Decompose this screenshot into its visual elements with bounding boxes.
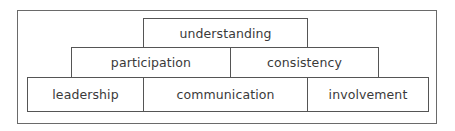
box-label: communication bbox=[177, 87, 275, 102]
box-label: consistency bbox=[267, 55, 342, 70]
pyramid-box-understanding: understanding bbox=[143, 18, 308, 48]
box-label: involvement bbox=[329, 87, 408, 102]
pyramid-box-involvement: involvement bbox=[307, 77, 429, 112]
pyramid-box-consistency: consistency bbox=[230, 47, 379, 78]
pyramid-box-communication: communication bbox=[143, 77, 308, 112]
box-label: leadership bbox=[52, 87, 118, 102]
box-label: understanding bbox=[179, 26, 271, 41]
pyramid-box-leadership: leadership bbox=[27, 77, 144, 112]
box-label: participation bbox=[111, 55, 191, 70]
pyramid-box-participation: participation bbox=[71, 47, 231, 78]
